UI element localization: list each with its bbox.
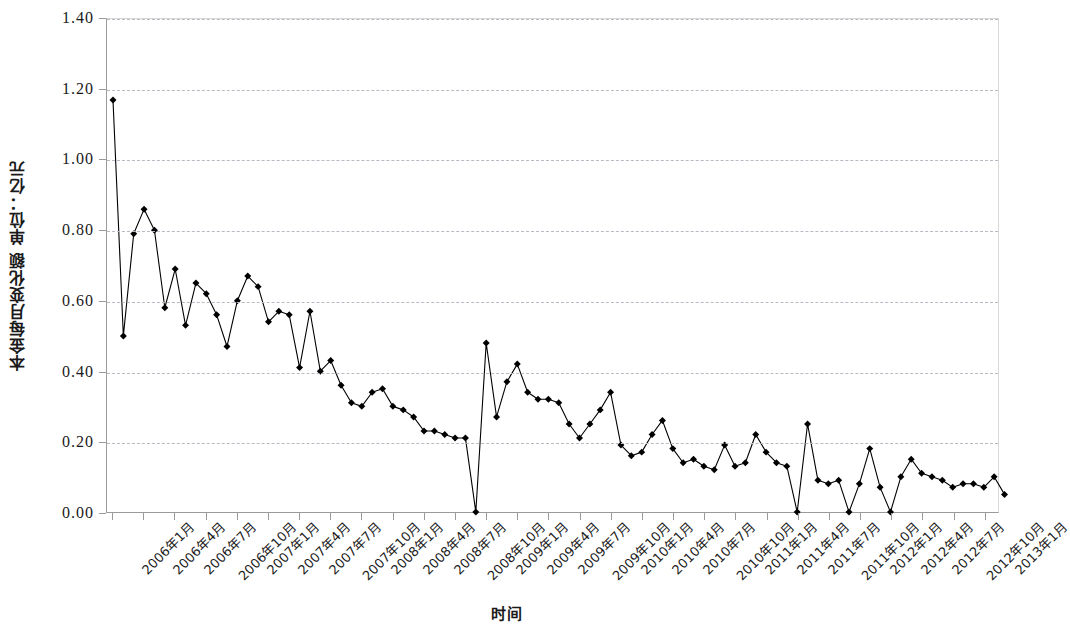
x-axis-tick-mark — [829, 513, 830, 520]
data-point-marker — [752, 431, 759, 438]
data-point-marker — [224, 343, 231, 350]
y-axis-tick-mark — [99, 18, 106, 19]
y-axis-tick-label: 0.60 — [62, 293, 94, 309]
series-svg — [107, 19, 998, 512]
data-point-marker — [856, 480, 863, 487]
data-point-marker — [306, 308, 313, 315]
gridline — [107, 302, 998, 303]
data-point-marker — [970, 480, 977, 487]
x-axis-tick-mark — [393, 513, 394, 520]
x-axis-tick-mark — [299, 513, 300, 520]
gridline — [107, 443, 998, 444]
y-axis-tick-mark — [99, 513, 106, 514]
y-axis-tick-label: 0.00 — [62, 505, 94, 521]
x-axis-tick-mark — [954, 513, 955, 520]
x-axis-title: 时间 — [0, 602, 1013, 623]
gridline — [107, 231, 998, 232]
data-point-marker — [1001, 491, 1008, 498]
data-point-marker — [866, 445, 873, 452]
x-axis-tick-mark — [237, 513, 238, 520]
x-axis-tick-mark — [767, 513, 768, 520]
x-axis-tick-mark — [112, 513, 113, 520]
data-point-marker — [535, 396, 542, 403]
data-point-marker — [431, 428, 438, 435]
data-point-marker — [379, 385, 386, 392]
data-point-marker — [690, 456, 697, 463]
data-point-marker — [711, 466, 718, 473]
data-point-marker — [503, 378, 510, 385]
x-axis-tick-mark — [486, 513, 487, 520]
data-point-marker — [949, 484, 956, 491]
data-point-marker — [441, 431, 448, 438]
x-axis-tick-mark — [704, 513, 705, 520]
gridline — [107, 19, 998, 20]
x-axis-tick-mark — [424, 513, 425, 520]
data-point-marker — [514, 361, 521, 368]
data-point-marker — [389, 403, 396, 410]
data-point-marker — [338, 382, 345, 389]
y-axis-tick-marks — [99, 18, 106, 513]
y-axis-title-text: 本金每月变化额 单位：亿元 — [7, 160, 31, 371]
data-point-marker — [877, 484, 884, 491]
plot-area — [106, 18, 999, 513]
x-axis-tick-mark — [735, 513, 736, 520]
data-point-marker — [120, 332, 127, 339]
data-point-marker — [731, 463, 738, 470]
y-axis-tick-label: 1.40 — [62, 10, 94, 26]
y-axis-tick-labels: 0.000.200.400.600.801.001.201.40 — [34, 0, 102, 531]
x-axis-tick-mark — [798, 513, 799, 520]
data-point-marker — [182, 322, 189, 329]
data-point-marker — [296, 364, 303, 371]
data-point-marker — [234, 297, 241, 304]
y-axis-tick-mark — [99, 372, 106, 373]
data-point-marker — [213, 311, 220, 318]
data-point-marker — [607, 389, 614, 396]
y-axis-tick-label: 0.20 — [62, 434, 94, 450]
data-point-marker — [524, 389, 531, 396]
x-axis-tick-mark — [268, 513, 269, 520]
x-axis-tick-labels: 2006年1月2006年4月2006年7月2006年10月2007年1月2007… — [0, 520, 1013, 600]
x-axis-tick-mark — [455, 513, 456, 520]
data-point-marker — [814, 477, 821, 484]
x-axis-tick-mark — [174, 513, 175, 520]
data-point-marker — [700, 463, 707, 470]
x-axis-tick-mark — [330, 513, 331, 520]
gridline — [107, 160, 998, 161]
x-axis-tick-mark — [922, 513, 923, 520]
y-axis-tick-label: 1.20 — [62, 81, 94, 97]
x-axis-tick-mark — [580, 513, 581, 520]
x-axis-tick-mark — [517, 513, 518, 520]
x-axis-tick-marks — [106, 513, 999, 520]
data-point-marker — [742, 459, 749, 466]
y-axis-tick-label: 1.00 — [62, 151, 94, 167]
data-point-marker — [483, 339, 490, 346]
data-point-marker — [928, 473, 935, 480]
x-axis-tick-mark — [611, 513, 612, 520]
data-point-marker — [545, 396, 552, 403]
y-axis-tick-mark — [99, 89, 106, 90]
data-point-marker — [783, 463, 790, 470]
data-point-marker — [825, 480, 832, 487]
x-axis-tick-mark — [891, 513, 892, 520]
gridline — [107, 373, 998, 374]
data-point-marker — [172, 266, 179, 273]
data-point-marker — [555, 399, 562, 406]
x-axis-tick-mark — [860, 513, 861, 520]
data-point-marker — [452, 435, 459, 442]
data-point-marker — [161, 304, 168, 311]
data-point-marker — [400, 406, 407, 413]
data-point-marker — [348, 399, 355, 406]
data-point-marker — [493, 413, 500, 420]
data-point-marker — [638, 449, 645, 456]
data-point-marker — [804, 420, 811, 427]
data-point-marker — [286, 311, 293, 318]
y-axis-tick-mark — [99, 442, 106, 443]
data-point-marker — [897, 473, 904, 480]
data-point-marker — [462, 435, 469, 442]
data-point-marker — [141, 206, 148, 213]
y-axis-tick-mark — [99, 301, 106, 302]
y-axis-tick-mark — [99, 230, 106, 231]
x-axis-tick-mark — [361, 513, 362, 520]
data-point-marker — [960, 480, 967, 487]
